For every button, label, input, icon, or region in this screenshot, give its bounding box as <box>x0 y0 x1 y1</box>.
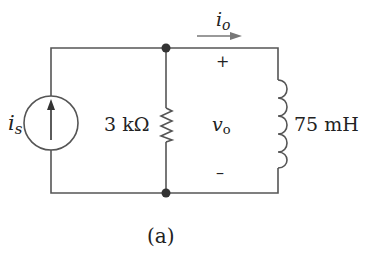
resistor-label: 3 kΩ <box>104 113 149 135</box>
current-arrow-icon <box>230 32 242 40</box>
current-source <box>24 96 78 150</box>
current-label: io <box>216 8 231 33</box>
top-wire <box>51 48 278 96</box>
plus-sign: + <box>216 52 229 71</box>
inductor-label: 75 mH <box>294 113 359 135</box>
figure-caption: (a) <box>147 224 175 248</box>
source-label: is <box>8 111 23 138</box>
bottom-wire <box>51 150 278 193</box>
circuit-diagram: io is 3 kΩ vo + – 75 mH (a) <box>0 0 370 255</box>
voltage-label: vo <box>212 113 231 137</box>
node-top <box>162 44 171 53</box>
minus-sign: – <box>216 163 224 182</box>
arrow-head-icon <box>47 99 55 110</box>
inductor-coil <box>278 80 287 168</box>
node-bottom <box>162 189 171 198</box>
wires <box>51 48 278 193</box>
resistor-zigzag <box>161 108 172 142</box>
circuit-schematic: io is 3 kΩ vo + – 75 mH (a) <box>0 0 370 255</box>
